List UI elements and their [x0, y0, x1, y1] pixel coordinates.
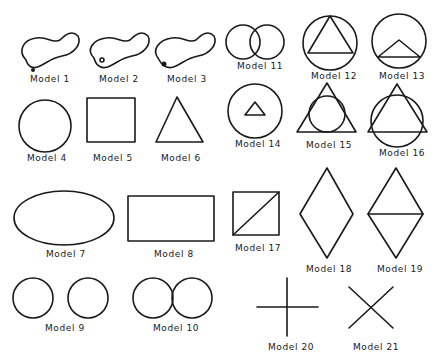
model-4-label: Model 4	[27, 153, 67, 163]
model-20-label: Model 20	[268, 342, 314, 352]
model-20-shape	[257, 278, 318, 336]
model-2-label: Model 2	[99, 74, 139, 84]
model-7-label: Model 7	[46, 249, 86, 259]
model-17-label: Model 17	[235, 243, 281, 253]
model-19-label: Model 19	[377, 264, 423, 274]
model-21-shape	[349, 287, 393, 328]
model-1-shape	[22, 33, 79, 72]
model-15-shape	[297, 83, 356, 132]
model-16-shape	[368, 84, 427, 147]
model-18-shape	[300, 168, 353, 258]
model-12-label: Model 12	[311, 71, 357, 81]
model-5-shape	[87, 98, 135, 142]
model-21-label: Model 21	[353, 342, 399, 352]
model-2-shape	[90, 33, 149, 68]
model-13-shape	[372, 14, 426, 68]
model-18-label: Model 18	[306, 264, 352, 274]
model-7-shape	[14, 191, 114, 245]
model-8-label: Model 8	[154, 249, 194, 259]
model-11-shape	[226, 25, 284, 59]
model-16-label: Model 16	[379, 148, 425, 158]
model-10-shape	[133, 278, 212, 318]
model-3-shape	[156, 33, 215, 68]
model-19-shape	[368, 168, 423, 258]
model-6-shape	[156, 97, 203, 142]
model-17-shape	[233, 192, 279, 235]
dot-icon	[31, 68, 35, 72]
model-3-label: Model 3	[167, 74, 207, 84]
model-5-label: Model 5	[93, 153, 133, 163]
model-9-label: Model 9	[45, 323, 85, 333]
model-13-label: Model 13	[379, 71, 425, 81]
model-6-label: Model 6	[161, 153, 201, 163]
model-10-label: Model 10	[153, 323, 199, 333]
model-figure	[0, 0, 438, 363]
model-11-label: Model 11	[237, 61, 283, 71]
model-1-label: Model 1	[30, 74, 70, 84]
model-4-shape	[19, 100, 71, 152]
model-8-shape	[128, 196, 214, 241]
model-15-label: Model 15	[306, 140, 352, 150]
model-9-shape	[13, 278, 108, 318]
model-14-label: Model 14	[235, 139, 281, 149]
model-14-shape	[228, 84, 282, 138]
model-12-shape	[303, 16, 357, 70]
